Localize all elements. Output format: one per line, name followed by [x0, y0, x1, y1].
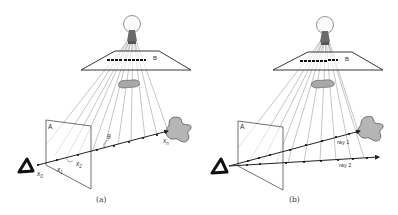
plane-b-label: B	[153, 55, 157, 61]
occluder-blob	[311, 80, 334, 88]
plane-a-label: A	[240, 123, 245, 130]
caption-a: (a)	[96, 195, 106, 204]
scene-object	[358, 116, 383, 141]
theta-label: θ	[107, 133, 111, 140]
image-plane-a	[46, 120, 91, 189]
ray-1-label: ray 1	[337, 139, 349, 145]
x0-label: x0	[36, 170, 43, 179]
occluder-blob	[118, 80, 139, 88]
panel-a: B A θ	[19, 16, 191, 205]
image-plane-a	[238, 121, 283, 190]
plane-b-label: B	[345, 56, 349, 62]
ray-marching-figure: B A θ	[0, 0, 398, 215]
light-bulb-icon	[317, 17, 334, 46]
eye-camera-icon	[19, 159, 33, 172]
caption-b: (b)	[289, 195, 300, 204]
ray-2-label: ray 2	[339, 162, 351, 168]
plane-a-label: A	[48, 123, 53, 130]
panel-b: B A	[212, 17, 383, 205]
eye-camera-icon	[212, 159, 227, 173]
xn-label: xn	[162, 137, 169, 146]
light-bulb-icon	[124, 16, 141, 45]
shadow-map-points	[107, 59, 146, 61]
scene-object	[166, 117, 191, 142]
